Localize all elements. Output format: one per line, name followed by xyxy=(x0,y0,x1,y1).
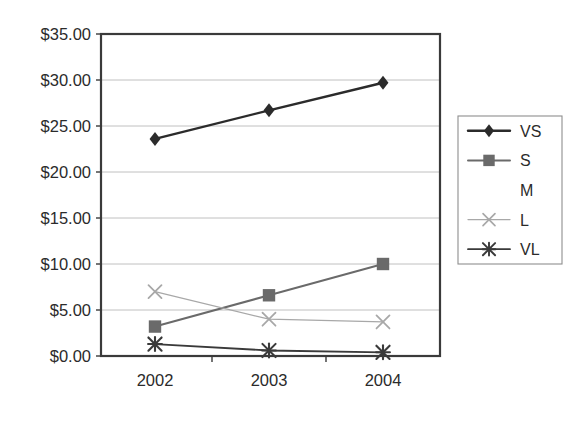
data-point-diamond xyxy=(150,132,161,146)
data-point-star xyxy=(148,337,162,351)
data-point-star xyxy=(483,243,496,256)
data-point-square xyxy=(263,289,275,301)
y-axis-tick-labels: $0.00$5.00$10.00$15.00$20.00$25.00$30.00… xyxy=(41,25,91,365)
legend-label: L xyxy=(520,212,529,229)
y-axis-tick-label: $10.00 xyxy=(41,255,91,273)
data-point-diamond xyxy=(264,103,275,117)
legend-item-m[interactable]: M xyxy=(520,182,533,199)
legend-label: VL xyxy=(520,241,540,258)
data-point-diamond xyxy=(378,76,389,90)
data-point-star xyxy=(262,344,276,358)
legend-label: M xyxy=(520,182,533,199)
y-axis-tick-label: $30.00 xyxy=(41,71,91,89)
data-point-square xyxy=(483,155,494,166)
chart-canvas: $0.00$5.00$10.00$15.00$20.00$25.00$30.00… xyxy=(0,0,577,423)
line-chart: $0.00$5.00$10.00$15.00$20.00$25.00$30.00… xyxy=(0,0,577,423)
data-point-square xyxy=(377,258,389,270)
x-axis-tick-label: 2004 xyxy=(365,371,402,389)
x-axis-tick-labels: 200220032004 xyxy=(137,371,402,389)
series-vs xyxy=(150,76,389,146)
legend-box xyxy=(458,116,562,264)
data-point-x xyxy=(149,285,162,298)
data-point-square xyxy=(149,320,161,332)
x-axis-tick-label: 2002 xyxy=(137,371,174,389)
y-axis-tick-label: $35.00 xyxy=(41,25,91,43)
data-series xyxy=(148,76,390,359)
x-axis-tick-label: 2003 xyxy=(251,371,288,389)
plot-area-border xyxy=(101,34,440,356)
y-axis-tick-label: $25.00 xyxy=(41,117,91,135)
y-axis-tick-label: $20.00 xyxy=(41,163,91,181)
legend-label: S xyxy=(520,152,531,169)
legend-label: VS xyxy=(520,123,541,140)
y-axis-tick-label: $0.00 xyxy=(50,347,91,365)
chart-legend: VSSMLVL xyxy=(458,116,562,264)
y-axis-tick-label: $5.00 xyxy=(50,301,91,319)
y-axis-tick-label: $15.00 xyxy=(41,209,91,227)
data-point-star xyxy=(376,345,390,359)
